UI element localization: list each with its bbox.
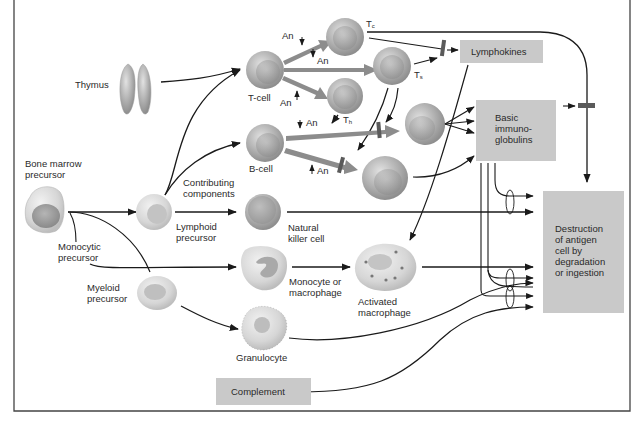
activated-macrophage-label: Activatedmacrophage	[358, 296, 411, 318]
granulocyte-label: Granulocyte	[236, 352, 287, 363]
t-cell-label: T-cell	[248, 92, 271, 103]
thymus-label: Thymus	[75, 79, 109, 90]
myeloid-precursor-label: Myeloidprecursor	[87, 282, 127, 304]
contributing-components-label: Contributingcomponents	[183, 177, 235, 199]
ts-cell-icon	[373, 47, 411, 85]
tc-cell-icon	[326, 18, 364, 56]
junction-loop	[506, 286, 514, 308]
thymus-icon	[120, 64, 151, 114]
antigen-label: An	[306, 117, 318, 128]
t-cell-icon	[246, 51, 284, 89]
monocytic-precursor-label: Monocyticprecursor	[58, 241, 101, 263]
complement-box: Complement	[216, 378, 311, 405]
monocyte-cell-icon	[241, 246, 287, 290]
junction-loop	[506, 190, 514, 214]
antigen-label: An	[317, 55, 329, 66]
inhibition-bar	[376, 122, 381, 138]
memory-b-cell-icon	[362, 156, 408, 200]
inhibition-bar	[578, 103, 595, 108]
b-cell-label: B-cell	[249, 163, 273, 174]
monocyte-label: Monocyte ormacrophage	[289, 276, 342, 298]
b-cell-icon	[246, 124, 284, 162]
ts-label: Ts	[414, 69, 423, 83]
inhibition-bar	[440, 40, 446, 56]
antigen-label: An	[280, 97, 292, 108]
antigen-label: An	[282, 30, 294, 41]
lymphoid-precursor-label: Lymphoidprecursor	[176, 221, 217, 243]
tc-label: Tc	[366, 18, 375, 32]
th-label: Th	[343, 114, 352, 128]
activated-macrophage-icon	[355, 244, 416, 291]
myeloid-precursor-cell-icon	[137, 276, 177, 310]
lymphoid-precursor-cell-icon	[136, 194, 172, 230]
lymphokines-box: Lymphokines	[460, 40, 543, 63]
granulocyte-cell-icon	[242, 306, 287, 350]
antigen-label: An	[317, 165, 329, 176]
natural-killer-cell-icon	[245, 194, 281, 230]
destruction-box: Destructionof antigencell bydegradationo…	[543, 191, 624, 313]
th-cell-icon	[327, 78, 363, 114]
natural-killer-label: Naturalkiller cell	[288, 222, 324, 244]
bone-marrow-label: Bone marrowprecursor	[25, 158, 82, 180]
bone-marrow-cell-icon	[25, 187, 64, 233]
immunoglobulins-box: Basicimmuno-globulins	[476, 100, 556, 161]
plasma-cell-icon	[400, 99, 450, 150]
junction-loop	[506, 269, 514, 291]
